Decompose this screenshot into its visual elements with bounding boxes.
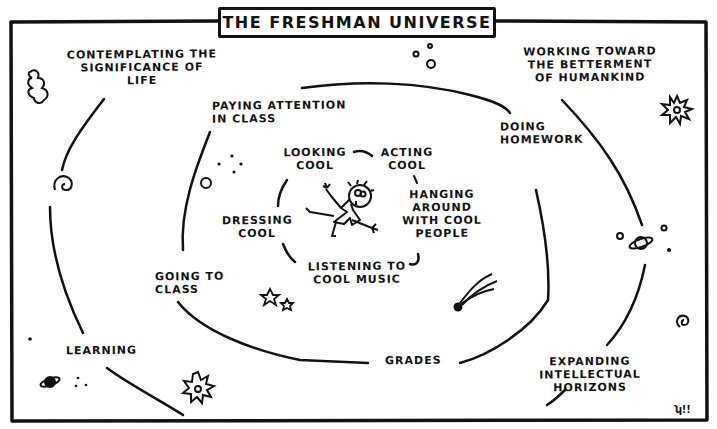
label-contemplating-life: CONTEMPLATING THE SIGNIFICANCE OF LIFE [66, 47, 218, 87]
label-paying-attention: PAYING ATTENTION IN CLASS [212, 98, 362, 125]
squiggle-icon [28, 70, 47, 103]
spiral-galaxy-icon [54, 176, 71, 190]
starburst-icon [183, 372, 214, 403]
freshman-universe-cartoon: THE FRESHMAN UNIVERSE CONTEMPLATING THE … [0, 0, 717, 429]
title-banner: THE FRESHMAN UNIVERSE [218, 7, 496, 38]
freshman-stick-figure [306, 180, 378, 236]
label-acting-cool: ACTING COOL [374, 146, 440, 173]
label-hanging-around: HANGING AROUND WITH COOL PEOPLE [402, 188, 482, 241]
label-dressing-cool: DRESSING COOL [222, 214, 292, 241]
outer-ring-arc [607, 265, 645, 345]
middle-ring-arc [460, 300, 548, 363]
label-grades: GRADES [385, 354, 442, 367]
middle-ring-arc [178, 302, 368, 363]
starburst-icon [662, 96, 692, 124]
label-going-to-class: GOING TO CLASS [155, 270, 235, 297]
bubble-icon [201, 178, 211, 188]
bubble-icon [617, 233, 623, 239]
planet-icon [628, 235, 653, 251]
outer-ring-arc [50, 207, 83, 333]
bubble-icon [662, 226, 667, 231]
stars-icon [261, 289, 293, 310]
label-betterment-of-humankind: WORKING TOWARD THE BETTERMENT OF HUMANKI… [515, 44, 665, 84]
inner-ring-arc [278, 180, 287, 206]
page-title: THE FRESHMAN UNIVERSE [222, 13, 491, 32]
middle-ring-arc [536, 190, 548, 300]
planet-icon [39, 375, 60, 388]
label-listening-music: LISTENING TO COOL MUSIC [302, 260, 412, 287]
spiral-icon [677, 316, 688, 327]
inner-ring-arc [414, 176, 417, 183]
label-doing-homework: DOING HOMEWORK [500, 120, 610, 147]
bubbles-icon [414, 44, 436, 68]
outer-ring-arc [62, 99, 104, 170]
label-looking-cool: LOOKING COOL [280, 146, 350, 173]
label-learning: LEARNING [66, 344, 137, 358]
comet-icon [455, 274, 498, 311]
inner-ring-arc [283, 244, 295, 262]
label-expanding-horizons: EXPANDING INTELLECTUAL HORIZONS [535, 355, 645, 395]
inner-ring-arc [354, 151, 372, 156]
outer-ring-arc [107, 368, 183, 415]
middle-ring-arc [183, 132, 210, 250]
artist-signature: ʮ!! [675, 404, 691, 415]
